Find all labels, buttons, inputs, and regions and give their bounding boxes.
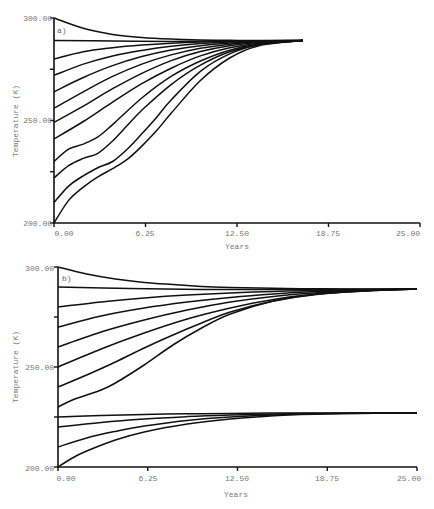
temperature-curve: [58, 289, 417, 347]
x-axis-title: Years: [224, 490, 248, 499]
temperature-curve: [58, 289, 417, 387]
x-tick-label-0: 0.00: [56, 474, 75, 483]
temperature-curve: [54, 41, 303, 223]
x-tick-label-6.25: 6.25: [138, 474, 157, 483]
x-tick-label-6.25: 6.25: [135, 229, 154, 238]
panel-label-a: a): [57, 26, 67, 35]
chart-figure: a) 300.00 250.00 200.00 0.00 6.25 12.50 …: [0, 0, 434, 509]
x-tick-label-25.00: 25.00: [397, 474, 421, 483]
x-tick-label-12.50: 12.50: [225, 474, 249, 483]
panel-b: b) 300.00 250.00 200.00 0.00 6.25 12.50 …: [11, 264, 421, 499]
x-tick-label-25.00: 25.00: [396, 229, 420, 238]
x-tick-label-18.75: 18.75: [315, 474, 339, 483]
temperature-curve: [54, 41, 303, 139]
x-tick-label-12.50: 12.50: [225, 229, 249, 238]
y-tick-label-300: 300.00: [23, 14, 52, 23]
x-tick-label-18.75: 18.75: [316, 229, 340, 238]
y-tick-label-250: 250.00: [23, 116, 52, 125]
temperature-curve: [58, 289, 417, 327]
panel-label-b: b): [62, 274, 72, 283]
panel-b-curves: [58, 267, 417, 467]
panel-a: a) 300.00 250.00 200.00 0.00 6.25 12.50 …: [11, 14, 420, 251]
y-tick-label-300: 300.00: [25, 264, 54, 273]
temperature-curve: [54, 41, 303, 92]
y-tick-label-200: 200.00: [25, 464, 54, 473]
x-axis-title: Years: [225, 242, 249, 251]
y-tick-label-200: 200.00: [23, 219, 52, 228]
y-tick-label-250: 250.00: [25, 363, 54, 372]
temperature-curve: [58, 267, 417, 289]
temperature-curve: [54, 18, 303, 41]
y-axis-title: Temperature (K): [11, 331, 20, 403]
x-tick-label-0: 0.00: [54, 229, 73, 238]
y-axis-title: Temperature (K): [11, 85, 20, 157]
panel-a-curves: [54, 18, 303, 223]
